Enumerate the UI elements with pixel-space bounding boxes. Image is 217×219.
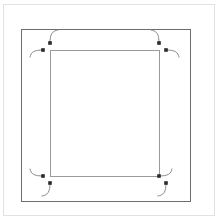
top-right-lower-node[interactable] <box>164 48 168 52</box>
diagram-svg <box>0 0 217 219</box>
bottom-right-lower-node[interactable] <box>164 181 168 185</box>
top-right-upper-node[interactable] <box>157 41 161 45</box>
top-left-lower-node[interactable] <box>41 48 45 52</box>
bottom-left-upper-node[interactable] <box>41 174 45 178</box>
top-left-upper-node[interactable] <box>48 41 52 45</box>
diagram-canvas <box>0 0 217 219</box>
bottom-left-lower-node[interactable] <box>48 181 52 185</box>
bottom-right-upper-node[interactable] <box>157 174 161 178</box>
background-rect <box>0 0 217 219</box>
